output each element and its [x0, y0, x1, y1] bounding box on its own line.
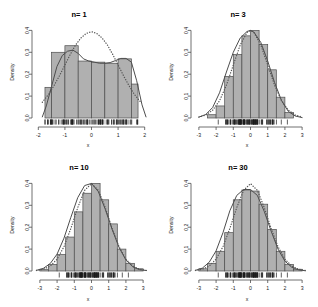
y-tick-label: 0.4 — [183, 180, 189, 187]
y-tick-label: 0.1 — [183, 245, 189, 252]
histogram-bar — [259, 45, 268, 118]
histogram-bar — [74, 212, 83, 271]
plot-area-n1: 0.00.10.20.30.4-2-1012 — [24, 27, 146, 138]
x-tick-label: 2 — [143, 132, 146, 138]
y-tick-label: 0.0 — [24, 267, 30, 274]
y-tick-label: 0.1 — [183, 92, 189, 99]
histogram-bar — [131, 84, 138, 118]
y-tick-label: 0.1 — [24, 245, 30, 252]
y-tick-label: 0.2 — [183, 70, 189, 77]
x-tick-label: -3 — [197, 285, 202, 291]
x-tick-label: 0 — [249, 132, 252, 138]
y-tick-label: 0.0 — [24, 114, 30, 121]
chart-panel-n10: n= 10 Density x 0.00.10.20.30.4-3-2-1012… — [0, 153, 159, 306]
histogram-grid: n= 1 Density x 0.00.10.20.30.4-2-1012 n=… — [0, 0, 318, 307]
x-tick-label: 1 — [266, 132, 269, 138]
histogram-bar — [207, 115, 216, 118]
histogram-bar — [105, 63, 118, 118]
y-tick-label: 0.3 — [24, 202, 30, 209]
x-tick-label: 3 — [301, 285, 304, 291]
y-tick-label: 0.4 — [183, 27, 189, 34]
histogram-bar — [242, 190, 251, 271]
histogram-bar — [242, 36, 251, 118]
panel-n3-svg: n= 3 Density x 0.00.10.20.30.4-3-2-10123 — [159, 0, 318, 153]
x-axis-label: x — [87, 142, 90, 148]
x-axis-label: x — [87, 296, 90, 302]
x-tick-label: -1 — [231, 132, 236, 138]
histogram-bars — [45, 46, 138, 118]
x-tick-label: -1 — [63, 132, 68, 138]
panel-title: n= 3 — [230, 10, 245, 19]
y-tick-label: 0.3 — [24, 49, 30, 56]
histogram-bar — [268, 229, 277, 271]
x-tick-label: 1 — [107, 285, 110, 291]
y-tick-label: 0.2 — [24, 223, 30, 230]
y-axis-label: Density — [168, 216, 174, 234]
histogram-bar — [233, 54, 242, 118]
x-tick-label: -3 — [197, 132, 202, 138]
x-tick-label: -2 — [55, 285, 60, 291]
x-tick-label: 2 — [283, 132, 286, 138]
chart-panel-n30: n= 30 Density x 0.00.10.20.30.4-3-2-1012… — [159, 153, 318, 306]
histogram-bar — [225, 76, 234, 118]
y-tick-label: 0.3 — [183, 202, 189, 209]
histogram-bar — [216, 106, 225, 118]
x-tick-label: -2 — [36, 132, 41, 138]
histogram-bar — [268, 70, 277, 118]
x-axis-label: x — [246, 142, 249, 148]
x-tick-label: 0 — [90, 285, 93, 291]
chart-panel-n3: n= 3 Density x 0.00.10.20.30.4-3-2-10123 — [159, 0, 318, 153]
histogram-bar — [216, 251, 225, 271]
panel-n10-svg: n= 10 Density x 0.00.10.20.30.4-3-2-1012… — [0, 153, 159, 307]
panel-n1-svg: n= 1 Density x 0.00.10.20.30.4-2-1012 — [0, 0, 159, 153]
histogram-bars — [199, 190, 302, 271]
x-tick-label: 2 — [124, 285, 127, 291]
y-tick-label: 0.0 — [183, 267, 189, 274]
y-axis-label: Density — [9, 216, 15, 234]
x-tick-label: -3 — [38, 285, 43, 291]
histogram-bar — [92, 62, 105, 118]
y-tick-label: 0.1 — [24, 92, 30, 99]
plot-area-n3: 0.00.10.20.30.4-3-2-10123 — [183, 27, 304, 138]
y-tick-label: 0.4 — [24, 27, 30, 34]
panel-title: n= 1 — [71, 10, 86, 19]
x-tick-label: 2 — [283, 285, 286, 291]
histogram-bar — [251, 191, 260, 271]
y-tick-label: 0.4 — [24, 180, 30, 187]
histogram-bars — [207, 30, 293, 118]
histogram-bar — [83, 193, 92, 271]
x-tick-label: -2 — [214, 285, 219, 291]
rug-plot — [59, 273, 128, 278]
panel-n30-svg: n= 30 Density x 0.00.10.20.30.4-3-2-1012… — [159, 153, 318, 307]
histogram-bar — [233, 200, 242, 271]
histogram-bar — [66, 237, 75, 271]
x-tick-label: -1 — [72, 285, 77, 291]
rug-plot — [45, 120, 138, 125]
rug-plot — [218, 273, 287, 278]
panel-title: n= 30 — [228, 163, 247, 172]
histogram-bar — [65, 46, 78, 118]
histogram-bars — [40, 183, 143, 271]
plot-area-n30: 0.00.10.20.30.4-3-2-10123 — [183, 180, 306, 291]
x-tick-label: 1 — [117, 132, 120, 138]
x-tick-label: 0 — [90, 132, 93, 138]
x-tick-label: 0 — [249, 285, 252, 291]
x-axis-label: x — [246, 296, 249, 302]
y-axis-label: Density — [9, 63, 15, 81]
histogram-bar — [78, 61, 91, 118]
x-tick-label: 1 — [266, 285, 269, 291]
chart-panel-n1: n= 1 Density x 0.00.10.20.30.4-2-1012 — [0, 0, 159, 153]
x-tick-label: -1 — [231, 285, 236, 291]
y-tick-label: 0.3 — [183, 49, 189, 56]
histogram-bar — [285, 113, 294, 118]
plot-area-n10: 0.00.10.20.30.4-3-2-10123 — [24, 180, 147, 291]
y-axis-label: Density — [168, 63, 174, 81]
histogram-bar — [48, 264, 57, 271]
y-tick-label: 0.2 — [183, 223, 189, 230]
x-tick-label: 3 — [142, 285, 145, 291]
histogram-bar — [100, 200, 109, 271]
y-tick-label: 0.0 — [183, 114, 189, 121]
x-tick-label: -2 — [214, 132, 219, 138]
histogram-bar — [207, 263, 216, 271]
rug-plot — [218, 120, 287, 125]
